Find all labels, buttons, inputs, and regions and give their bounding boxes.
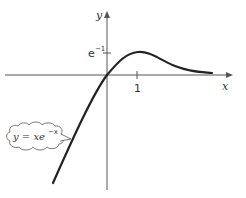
y-axis-arrow-icon xyxy=(104,11,110,18)
x-axis-arrow-icon xyxy=(226,72,233,78)
callout-bubble: y = xe −x xyxy=(7,122,71,150)
callout-exponent: −x xyxy=(48,128,58,136)
y-tick-label: e xyxy=(88,47,95,60)
callout-formula: y = xe xyxy=(12,131,45,142)
y-tick-exponent: −1 xyxy=(95,45,105,53)
callout-pointer xyxy=(60,134,71,141)
x-tick-label: 1 xyxy=(134,82,141,95)
x-axis-label: x xyxy=(222,80,229,93)
graph-canvas: y x 1 e −1 y = xe −x xyxy=(0,0,246,198)
y-axis-label: y xyxy=(95,9,103,22)
curve-xe-neg-x xyxy=(53,52,212,183)
